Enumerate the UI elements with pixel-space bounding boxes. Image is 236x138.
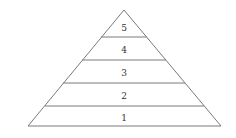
level-3-label: 3 [121,68,127,78]
level-2-label: 2 [121,91,127,101]
level-5-label: 5 [121,23,127,33]
level-1-label: 1 [121,113,127,123]
pyramid-diagram: 5 4 3 2 1 [0,0,236,138]
level-4-label: 4 [121,45,127,55]
